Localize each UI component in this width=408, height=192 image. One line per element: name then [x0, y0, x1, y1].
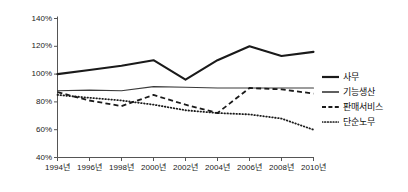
legend-swatch-dashed-icon — [322, 102, 339, 112]
legend-item-label: 단순노무 — [343, 118, 375, 127]
legend-item[interactable]: 판매서비스 — [322, 100, 406, 114]
y-axis-tick-label: 140% — [20, 15, 52, 23]
legend-swatch-solid-thin-icon — [322, 87, 339, 97]
x-axis-tick-label: 2002년 — [169, 164, 203, 172]
x-axis-tick-label: 2008년 — [265, 164, 299, 172]
y-axis-tick-label: 40% — [20, 154, 52, 162]
chart-legend: 사무기능생산판매서비스단순노무 — [322, 70, 406, 130]
x-axis-tick-label: 2006년 — [233, 164, 267, 172]
x-axis-tick-label: 2004년 — [201, 164, 235, 172]
series-line-3 — [58, 95, 314, 130]
legend-item[interactable]: 단순노무 — [322, 115, 406, 129]
series-group — [58, 46, 314, 129]
y-axis-tick-label: 80% — [20, 98, 52, 106]
legend-item[interactable]: 기능생산 — [322, 85, 406, 99]
x-axis-tick-label: 1994년 — [41, 164, 75, 172]
legend-item-label: 기능생산 — [343, 88, 375, 97]
series-line-0 — [58, 46, 314, 79]
y-axis-tick-label: 60% — [20, 126, 52, 134]
legend-item-label: 판매서비스 — [343, 103, 383, 112]
series-line-2 — [58, 88, 314, 113]
x-axis-tick-label: 1996년 — [73, 164, 107, 172]
x-axis-tick-label: 2010년 — [297, 164, 331, 172]
line-chart: 140%120%100%80%60%40% 1994년1996년1998년200… — [0, 0, 408, 192]
x-axis-tick-label: 2000년 — [137, 164, 171, 172]
legend-swatch-solid-thick-icon — [322, 72, 339, 82]
legend-swatch-dotted-icon — [322, 117, 339, 127]
legend-item-label: 사무 — [343, 73, 359, 82]
legend-item[interactable]: 사무 — [322, 70, 406, 84]
y-axis-tick-label: 100% — [20, 70, 52, 78]
x-axis-tick-label: 1998년 — [105, 164, 139, 172]
y-axis-tick-label: 120% — [20, 42, 52, 50]
